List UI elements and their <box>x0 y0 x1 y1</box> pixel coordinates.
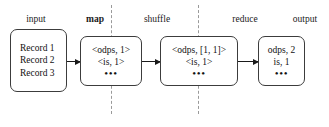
stage-label-input: input <box>14 14 58 25</box>
arrow-shuffle-to-reduce <box>238 61 258 62</box>
mapreduce-dataflow-diagram: input map shuffle reduce output Record 1… <box>0 0 329 127</box>
shuffle-output-line-1: <odps, [1, 1]> <box>172 44 226 57</box>
map-output-ellipsis: ••• <box>104 69 117 79</box>
stage-label-reduce: reduce <box>221 14 269 25</box>
reduce-output-box: odps, 2 is, 1 ••• <box>258 36 305 86</box>
shuffle-output-box: <odps, [1, 1]> <is, 1> ••• <box>160 36 238 86</box>
stage-label-shuffle: shuffle <box>133 14 181 25</box>
arrow-input-to-map <box>67 61 80 62</box>
map-output-line-1: <odps, 1> <box>92 44 130 57</box>
shuffle-output-ellipsis: ••• <box>192 69 205 79</box>
reduce-output-ellipsis: ••• <box>275 69 288 79</box>
input-record-line-3: Record 3 <box>11 67 55 80</box>
input-records-box: Record 1 Record 2 Record 3 <box>10 29 67 92</box>
input-record-line-2: Record 2 <box>11 54 55 67</box>
input-record-line-1: Record 1 <box>11 42 55 55</box>
arrow-map-to-shuffle <box>142 61 160 62</box>
reduce-output-line-1: odps, 2 <box>268 44 295 57</box>
map-output-box: <odps, 1> <is, 1> ••• <box>80 36 142 86</box>
stage-label-output: output <box>283 14 327 25</box>
stage-label-map: map <box>73 14 117 25</box>
